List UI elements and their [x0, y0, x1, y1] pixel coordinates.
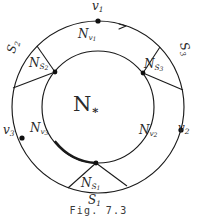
- vertex-dot-v3: [19, 135, 24, 140]
- region-label-Nv3: Nv3: [30, 122, 48, 137]
- vertex-dot-v1: [95, 18, 100, 23]
- figure-caption: Fig. 7.3: [0, 205, 197, 216]
- vertex-label-v1: v1: [92, 0, 103, 14]
- region-label-N-star: N∗: [73, 94, 99, 117]
- junction-dot-upper-left: [53, 70, 58, 75]
- region-label-Nv2: Nv2: [139, 124, 157, 139]
- junction-dot-bottom: [94, 161, 99, 166]
- figure-container: v1 v2 v3 Nv1 Nv2 Nv3 NS1 NS2 NS3 S1 S2 S…: [0, 0, 197, 218]
- region-label-Nv1: Nv1: [78, 28, 96, 43]
- region-label-NS1: NS1: [81, 177, 100, 192]
- region-label-NS3: NS3: [144, 58, 163, 73]
- vertex-label-v2: v2: [178, 122, 189, 136]
- region-label-NS2: NS2: [29, 57, 48, 72]
- radial-line-s3-lower: [143, 73, 183, 90]
- inner-circle-thick-arc: [56, 142, 97, 163]
- vertex-label-v3: v3: [3, 124, 14, 138]
- radial-line-s1-right: [96, 163, 127, 186]
